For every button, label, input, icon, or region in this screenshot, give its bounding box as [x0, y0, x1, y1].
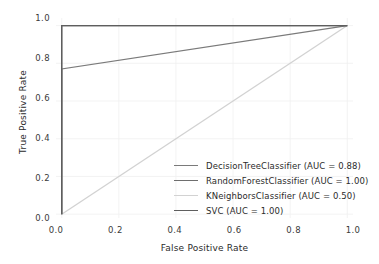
x-tick-label-0: 0.0	[36, 226, 76, 235]
legend-label-randomforest: RandomForestClassifier (AUC = 1.00)	[206, 176, 368, 186]
chart-legend: DecisionTreeClassifier (AUC = 0.88) Rand…	[174, 158, 374, 218]
y-tick-label-5: 1.0	[20, 14, 50, 23]
x-tick-label-2: 0.4	[155, 226, 195, 235]
legend-line-icon-decisiontree	[174, 161, 198, 171]
legend-line-icon-randomforest	[174, 176, 198, 186]
y-axis-title: True Positive Rate	[18, 42, 28, 182]
legend-line-icon-svc	[174, 206, 198, 216]
x-tick-label-3: 0.6	[214, 226, 254, 235]
x-tick-label-1: 0.2	[95, 226, 135, 235]
legend-item-randomforest: RandomForestClassifier (AUC = 1.00)	[174, 173, 374, 188]
legend-label-decisiontree: DecisionTreeClassifier (AUC = 0.88)	[206, 161, 361, 171]
y-tick-label-0: 0.0	[20, 214, 50, 223]
legend-item-svc: SVC (AUC = 1.00)	[174, 203, 374, 218]
x-tick-label-4: 0.8	[274, 226, 314, 235]
legend-label-kneighbors: KNeighborsClassifier (AUC = 0.50)	[206, 191, 356, 201]
legend-line-icon-kneighbors	[174, 191, 198, 201]
x-tick-label-5: 1.0	[333, 226, 373, 235]
legend-item-decisiontree: DecisionTreeClassifier (AUC = 0.88)	[174, 158, 374, 173]
legend-label-svc: SVC (AUC = 1.00)	[206, 206, 284, 216]
legend-item-kneighbors: KNeighborsClassifier (AUC = 0.50)	[174, 188, 374, 203]
x-axis-tick-labels: 0.0 0.2 0.4 0.6 0.8 1.0	[56, 226, 353, 238]
x-axis-title: False Positive Rate	[56, 243, 353, 253]
roc-curve-figure: 0.0 0.2 0.4 0.6 0.8 1.0 0.0 0.2 0.4 0.6 …	[0, 0, 379, 264]
